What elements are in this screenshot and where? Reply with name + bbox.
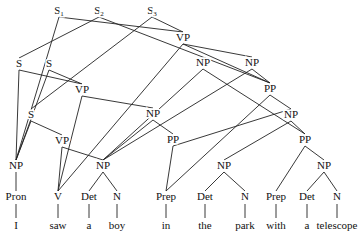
node-s: S bbox=[16, 57, 22, 69]
word: telescope bbox=[317, 219, 358, 231]
node-np: NP bbox=[96, 159, 110, 171]
node-np: NP bbox=[284, 108, 298, 120]
node-s: S3 bbox=[147, 4, 157, 18]
parse-forest-diagram: S1S2S3VPSSNPNPVPPPNPNPSVPPPPPNPNPNPNPPro… bbox=[0, 0, 362, 245]
node-pp: PP bbox=[167, 133, 179, 145]
word: I bbox=[14, 219, 18, 231]
node-n: N bbox=[113, 190, 121, 202]
word: the bbox=[198, 219, 212, 231]
word: in bbox=[162, 219, 171, 231]
tree-edge bbox=[59, 17, 183, 32]
node-s: S1 bbox=[54, 4, 64, 18]
node-np: NP bbox=[317, 159, 331, 171]
tree-edge bbox=[103, 172, 117, 191]
tree-edge bbox=[203, 69, 305, 134]
tree-edge bbox=[103, 120, 153, 160]
node-np: NP bbox=[196, 56, 210, 68]
word: saw bbox=[49, 219, 66, 231]
tree-edge bbox=[183, 44, 252, 57]
tree-edge bbox=[16, 17, 59, 160]
node-det: Det bbox=[81, 190, 97, 202]
tree-edge bbox=[99, 17, 270, 83]
tree-edge bbox=[16, 121, 31, 160]
node-n: N bbox=[241, 190, 249, 202]
tree-edge bbox=[305, 146, 324, 160]
node-s: S2 bbox=[94, 4, 104, 18]
node-prep: Prep bbox=[266, 190, 287, 202]
tree-edge bbox=[103, 69, 252, 160]
tree-edge bbox=[153, 120, 173, 134]
node-pp: PP bbox=[264, 82, 276, 94]
node-prep: Prep bbox=[156, 190, 177, 202]
node-det: Det bbox=[197, 190, 213, 202]
node-vp: VP bbox=[176, 31, 190, 43]
tree-edge bbox=[276, 146, 305, 191]
word: a bbox=[87, 219, 92, 231]
word: a bbox=[305, 219, 310, 231]
node-v: V bbox=[54, 190, 62, 202]
tree-edge bbox=[307, 172, 324, 191]
node-np: NP bbox=[146, 107, 160, 119]
node-pp: PP bbox=[299, 133, 311, 145]
tree-edge bbox=[89, 172, 103, 191]
node-np: NP bbox=[217, 159, 231, 171]
word: park bbox=[235, 219, 255, 231]
node-s: S bbox=[28, 108, 34, 120]
node-n: N bbox=[333, 190, 341, 202]
node-det: Det bbox=[299, 190, 315, 202]
tree-edge bbox=[31, 121, 62, 135]
tree-edge bbox=[166, 146, 173, 191]
tree-edge bbox=[224, 172, 245, 191]
node-pron: Pron bbox=[6, 190, 27, 202]
node-np: NP bbox=[245, 56, 259, 68]
tree-edge bbox=[19, 17, 99, 58]
tree-edge bbox=[173, 109, 291, 146]
tree-edge bbox=[16, 70, 19, 160]
node-vp: VP bbox=[55, 134, 69, 146]
tree-edge bbox=[49, 70, 82, 84]
tree-edge bbox=[205, 172, 224, 191]
tree-edge bbox=[82, 96, 153, 108]
word: boy bbox=[109, 219, 126, 231]
word: with bbox=[266, 219, 286, 231]
tree-edge bbox=[270, 95, 291, 109]
node-vp: VP bbox=[75, 83, 89, 95]
node-np: NP bbox=[9, 159, 23, 171]
tree-edge bbox=[324, 172, 337, 191]
node-s: S bbox=[46, 57, 52, 69]
